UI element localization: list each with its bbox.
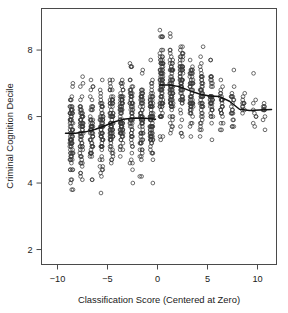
x-tick-label: 5 — [205, 274, 210, 284]
y-tick-label: 4 — [27, 178, 32, 188]
y-axis-title: Criminal Cognition Decile — [4, 83, 15, 188]
data-point — [232, 68, 236, 72]
data-point — [180, 118, 184, 122]
data-point — [261, 118, 265, 122]
data-point — [88, 95, 92, 99]
data-point — [198, 135, 202, 139]
data-point — [130, 151, 134, 155]
data-point — [79, 98, 83, 102]
data-point — [131, 168, 135, 172]
data-point — [131, 161, 135, 165]
data-point — [89, 78, 93, 82]
data-point — [210, 138, 214, 142]
data-point — [118, 155, 122, 159]
x-tick-label: 10 — [252, 274, 262, 284]
data-point — [199, 55, 203, 59]
data-point — [168, 121, 172, 125]
data-point — [219, 78, 223, 82]
data-point — [179, 125, 183, 129]
data-point — [188, 58, 192, 62]
data-point — [99, 171, 103, 175]
data-point — [158, 28, 162, 32]
fit-line-right-of-cutoff — [160, 85, 272, 111]
data-point — [254, 115, 258, 119]
data-point — [81, 75, 85, 79]
data-point — [151, 181, 155, 185]
y-tick-label: 8 — [27, 45, 32, 55]
data-point — [189, 135, 193, 139]
data-point — [253, 125, 257, 129]
data-points-group — [68, 28, 267, 195]
y-axis-tick-labels: 2468 — [27, 45, 32, 254]
y-axis-ticks — [37, 50, 42, 249]
data-point — [81, 81, 85, 85]
data-point — [149, 58, 153, 62]
x-tick-label: −5 — [102, 274, 112, 284]
data-point — [90, 178, 94, 182]
x-tick-label: 0 — [155, 274, 160, 284]
data-point — [232, 85, 236, 89]
data-point — [263, 128, 267, 132]
data-point — [252, 71, 256, 75]
x-tick-label: −10 — [50, 274, 66, 284]
data-point — [100, 78, 104, 82]
data-point — [81, 178, 85, 182]
data-point — [138, 105, 142, 109]
x-axis-tick-labels: −10−50510 — [50, 274, 263, 284]
data-point — [210, 121, 214, 125]
y-tick-label: 6 — [27, 112, 32, 122]
data-point — [201, 45, 205, 49]
data-point — [111, 78, 115, 82]
data-point — [200, 62, 204, 66]
x-axis-title: Classification Score (Centered at Zero) — [78, 294, 240, 305]
data-point — [78, 85, 82, 89]
y-tick-label: 2 — [27, 245, 32, 255]
data-point — [251, 101, 255, 105]
data-point — [151, 158, 155, 162]
data-point — [89, 88, 93, 92]
plot-frame — [42, 9, 277, 265]
data-point — [99, 191, 103, 195]
data-point — [131, 181, 135, 185]
plot-canvas: −10−50510 2468 Classification Score (Cen… — [0, 0, 288, 313]
data-point — [254, 98, 258, 102]
scatter-plot-figure: −10−50510 2468 Classification Score (Cen… — [0, 0, 288, 313]
x-axis-ticks — [58, 265, 258, 270]
